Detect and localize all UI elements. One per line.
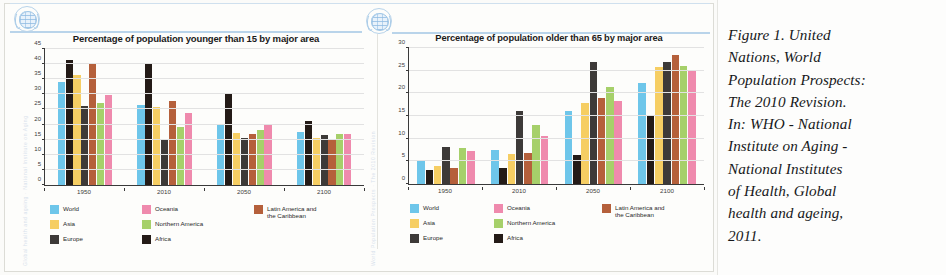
x-tick-mark xyxy=(408,187,409,190)
legend-item: Africa xyxy=(494,233,602,243)
bar xyxy=(417,161,425,184)
bar-groups-younger xyxy=(45,49,364,185)
x-tick-mark xyxy=(482,187,483,190)
gridline xyxy=(45,78,364,79)
y-tick-label: 0 xyxy=(38,176,41,182)
legend-label: World xyxy=(423,203,439,211)
legend-label: World xyxy=(63,204,79,212)
legend-swatch xyxy=(494,234,503,243)
y-tick-mark xyxy=(406,70,409,71)
y-tick-mark xyxy=(42,124,45,125)
bar xyxy=(516,111,524,184)
panel-divider xyxy=(377,34,378,249)
plot-area-older: 051015202530 xyxy=(408,48,704,185)
margin-watermark-center: World Population Prospects · The 2010 Re… xyxy=(370,131,376,266)
legend-item: World xyxy=(50,204,142,214)
bar-group xyxy=(630,48,704,184)
legend-swatch xyxy=(142,205,151,214)
y-tick-mark xyxy=(406,183,409,184)
gridline xyxy=(409,47,704,48)
y-tick-label: 15 xyxy=(398,107,405,113)
legend-label: Asia xyxy=(63,219,75,227)
y-tick-label: 0 xyxy=(402,175,405,181)
legend-younger: WorldOceaniaLatin America and the Caribb… xyxy=(22,204,370,249)
y-tick-label: 10 xyxy=(34,146,41,152)
legend-swatch xyxy=(602,204,611,213)
bar xyxy=(161,139,168,185)
y-tick-mark xyxy=(406,160,409,161)
chart-younger-than-15: Percentage of population younger than 15… xyxy=(22,33,370,267)
legend-item: World xyxy=(410,203,494,213)
gridline xyxy=(409,115,704,116)
chart-title-younger: Percentage of population younger than 15… xyxy=(22,33,370,44)
chart-older-than-65: Percentage of population older than 65 b… xyxy=(388,33,710,267)
legend-label: Europe xyxy=(423,233,443,241)
bar xyxy=(297,132,304,185)
x-axis-label: 2010 xyxy=(482,187,556,194)
y-tick-mark xyxy=(406,47,409,48)
y-tick-label: 25 xyxy=(34,100,41,106)
y-tick-label: 30 xyxy=(34,85,41,91)
x-tick-mark xyxy=(44,188,45,191)
legend-swatch xyxy=(410,219,419,228)
bar xyxy=(565,111,573,184)
y-tick-mark xyxy=(42,48,45,49)
bar xyxy=(532,125,540,184)
legend-label: Northern America xyxy=(155,219,203,227)
figure-caption: Figure 1. UnitedNations, WorldPopulation… xyxy=(728,24,942,247)
legend-label: Latin America and the Caribbean xyxy=(267,204,317,220)
x-axis-label: 2100 xyxy=(284,188,364,195)
bar-group xyxy=(483,48,557,184)
y-tick-mark xyxy=(42,184,45,185)
bar xyxy=(321,135,328,185)
legend-label: Africa xyxy=(155,234,171,242)
legend-swatch xyxy=(494,204,503,213)
legend-label: Northern America xyxy=(507,218,555,226)
y-tick-label: 15 xyxy=(34,131,41,137)
bar-groups-older xyxy=(409,48,704,184)
legend-item: Europe xyxy=(410,233,494,243)
legend-item: Europe xyxy=(50,234,142,244)
y-tick-label: 45 xyxy=(34,40,41,46)
legend-item: Asia xyxy=(410,218,494,228)
legend-swatch xyxy=(142,220,151,229)
gridline xyxy=(45,139,364,140)
bar xyxy=(249,134,256,185)
y-tick-mark xyxy=(42,139,45,140)
bar xyxy=(638,83,646,184)
x-axis-labels-older: 1950201020502100 xyxy=(408,187,704,194)
bar xyxy=(328,139,335,185)
bar xyxy=(442,147,450,184)
gridline xyxy=(409,92,704,93)
legend-swatch xyxy=(410,204,419,213)
y-tick-mark xyxy=(42,78,45,79)
plot-wrap-younger: 051015202530354045 1950201020502100 xyxy=(22,49,370,195)
legend-item: Oceania xyxy=(494,203,602,213)
legend-swatch xyxy=(142,235,151,244)
y-tick-label: 5 xyxy=(38,161,41,167)
bar xyxy=(647,116,655,184)
bar-group xyxy=(205,49,285,185)
bar-group xyxy=(125,49,205,185)
y-tick-label: 5 xyxy=(402,152,405,158)
bar xyxy=(169,101,176,185)
bar xyxy=(614,101,622,184)
legend-label: Oceania xyxy=(155,204,178,212)
x-tick-mark xyxy=(284,188,285,191)
x-tick-mark xyxy=(704,187,705,190)
caption-line: Institute on Aging - xyxy=(728,135,942,157)
bar xyxy=(313,138,320,185)
bar xyxy=(680,66,688,184)
gridline xyxy=(45,93,364,94)
y-tick-mark xyxy=(42,63,45,64)
page-top-rule xyxy=(10,3,710,4)
caption-line: The 2010 Revision. xyxy=(728,91,942,113)
bar xyxy=(672,55,680,184)
gridline xyxy=(45,63,364,64)
gridline xyxy=(45,124,364,125)
united-nations-emblem-icon-2 xyxy=(366,8,392,34)
legend-label: Oceania xyxy=(507,203,530,211)
legend-item: Latin America and the Caribbean xyxy=(254,204,370,220)
bar-group xyxy=(557,48,631,184)
y-tick-mark xyxy=(42,108,45,109)
